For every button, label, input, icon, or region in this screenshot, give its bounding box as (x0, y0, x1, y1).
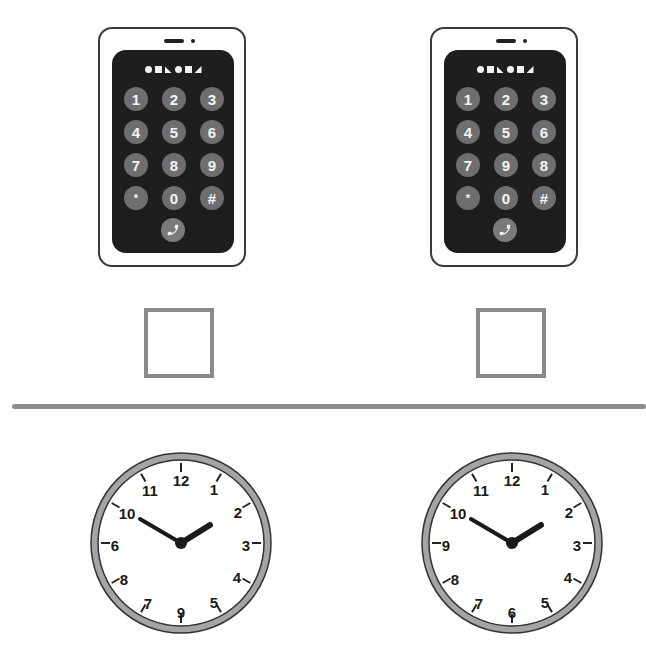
shape-strip (444, 66, 566, 73)
key-8[interactable]: 8 (532, 153, 556, 177)
clock-number: 4 (233, 569, 241, 586)
phone-screen: 1 2 3 4 5 6 7 9 8 * 0 # (444, 50, 566, 253)
key-7[interactable]: 7 (456, 153, 480, 177)
section-divider (12, 404, 646, 409)
key-1[interactable]: 1 (124, 87, 148, 111)
camera-dot (523, 39, 527, 43)
key-star[interactable]: * (124, 186, 148, 210)
key-hash[interactable]: # (200, 186, 224, 210)
clock-number: 3 (573, 537, 581, 554)
key-2[interactable]: 2 (162, 87, 186, 111)
clock-number: 10 (119, 505, 136, 522)
phone-right: 1 2 3 4 5 6 7 9 8 * 0 # (430, 27, 578, 267)
call-button[interactable] (161, 218, 185, 242)
speaker-grille (496, 39, 516, 43)
clock-number: 8 (451, 571, 459, 588)
key-0[interactable]: 0 (494, 186, 518, 210)
square-shape-icon (185, 66, 192, 73)
call-button[interactable] (493, 218, 517, 242)
clock-number: 6 (508, 604, 516, 621)
clock-number: 10 (450, 505, 467, 522)
clock-number: 2 (565, 504, 573, 521)
keypad: 1 2 3 4 5 6 7 8 9 * 0 # (124, 87, 224, 210)
clock-number: 6 (111, 537, 119, 554)
key-3[interactable]: 3 (532, 87, 556, 111)
triangle-shape-icon (527, 66, 534, 73)
clock-number: 7 (144, 595, 152, 612)
key-8[interactable]: 8 (162, 153, 186, 177)
keypad: 1 2 3 4 5 6 7 9 8 * 0 # (456, 87, 556, 210)
clock-number: 5 (541, 594, 549, 611)
clock-number: 3 (242, 537, 250, 554)
clock-number: 12 (173, 472, 190, 489)
clock-number: 5 (210, 594, 218, 611)
shape-strip (112, 66, 234, 73)
phone-handset-icon (166, 223, 180, 237)
clock-number: 2 (234, 504, 242, 521)
key-hash[interactable]: # (532, 186, 556, 210)
clock-number: 11 (473, 482, 489, 499)
triangle-shape-icon (195, 66, 202, 73)
square-shape-icon (487, 66, 494, 73)
key-4[interactable]: 4 (124, 120, 148, 144)
phone-left: 1 2 3 4 5 6 7 8 9 * 0 # (98, 27, 246, 267)
camera-dot (191, 39, 195, 43)
key-4[interactable]: 4 (456, 120, 480, 144)
key-6[interactable]: 6 (200, 120, 224, 144)
circle-shape-icon (507, 66, 514, 73)
clock-number: 8 (120, 571, 128, 588)
circle-shape-icon (477, 66, 484, 73)
circle-shape-icon (145, 66, 152, 73)
key-5[interactable]: 5 (162, 120, 186, 144)
speaker-grille (164, 39, 184, 43)
key-9[interactable]: 9 (494, 153, 518, 177)
key-3[interactable]: 3 (200, 87, 224, 111)
key-2[interactable]: 2 (494, 87, 518, 111)
key-9[interactable]: 9 (200, 153, 224, 177)
phone-handset-icon (498, 223, 512, 237)
triangle-shape-icon (497, 66, 504, 73)
key-7[interactable]: 7 (124, 153, 148, 177)
key-0[interactable]: 0 (162, 186, 186, 210)
square-shape-icon (155, 66, 162, 73)
key-1[interactable]: 1 (456, 87, 480, 111)
clock-right: 12 1 2 3 4 5 6 7 8 9 10 11 (417, 448, 607, 638)
clock-number: 7 (475, 595, 483, 612)
key-6[interactable]: 6 (532, 120, 556, 144)
clock-left: 12 1 2 3 4 5 9 7 8 6 10 11 (86, 448, 276, 638)
key-star[interactable]: * (456, 186, 480, 210)
clock-number: 1 (541, 481, 549, 498)
clock-number: 11 (142, 482, 158, 499)
circle-shape-icon (175, 66, 182, 73)
clock-number: 12 (504, 472, 521, 489)
phone-screen: 1 2 3 4 5 6 7 8 9 * 0 # (112, 50, 234, 253)
clock-number: 9 (442, 537, 450, 554)
key-5[interactable]: 5 (494, 120, 518, 144)
clock-number: 4 (564, 569, 572, 586)
clock-number: 9 (177, 604, 185, 621)
triangle-shape-icon (165, 66, 172, 73)
answer-checkbox-right[interactable] (476, 308, 546, 378)
answer-checkbox-left[interactable] (144, 308, 214, 378)
clock-number: 1 (210, 481, 218, 498)
square-shape-icon (517, 66, 524, 73)
